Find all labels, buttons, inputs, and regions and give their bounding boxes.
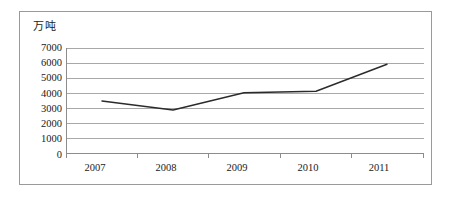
chart-plot-svg <box>0 0 450 197</box>
data-series-line <box>102 64 387 110</box>
gridlines-horizontal <box>66 49 424 139</box>
chart-figure: 万吨 7000 6000 5000 4000 3000 2000 1000 0 … <box>0 0 450 197</box>
